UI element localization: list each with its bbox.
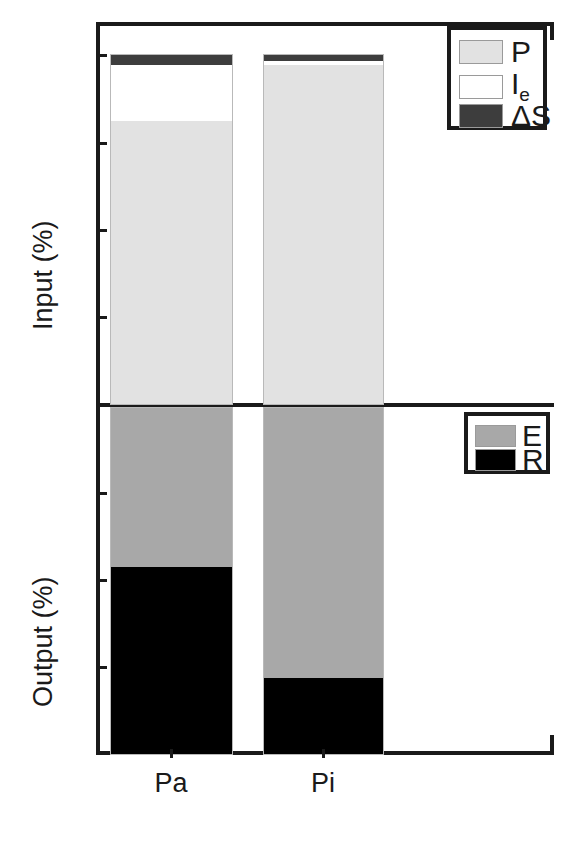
legend-swatch-P-icon: [459, 40, 503, 64]
ytick-output-75: [96, 666, 107, 669]
bar-pa-input-P: [110, 121, 233, 405]
ytick-input-75: [96, 142, 107, 145]
ytick-output-50: [96, 579, 107, 582]
bar-pi-output-E: [263, 407, 384, 678]
bar-pa-output-R: [110, 567, 233, 755]
legend-swatch-E-icon: [475, 425, 516, 447]
legend-label-R: R: [522, 445, 544, 475]
bar-pi-input-P: [263, 65, 384, 405]
legend-label-P: P: [511, 37, 531, 67]
frame-right-stub-bottom: [550, 735, 554, 755]
bar-pa-input-Ie: [110, 65, 233, 121]
legend-swatch-R-icon: [475, 449, 516, 471]
xtick-pa: [170, 749, 173, 758]
ytick-output-100: [96, 752, 107, 755]
ytick-input-50: [96, 229, 107, 232]
xtick-label-pa: Pa: [131, 768, 211, 798]
bar-pa-output-E: [110, 407, 233, 567]
ytick-input-100: [96, 54, 107, 57]
legend-swatch-dS-icon: [459, 104, 503, 128]
axis-title-input: Input (%): [28, 220, 59, 330]
frame-right-stub-top: [550, 22, 554, 40]
bar-pi-output-R: [263, 678, 384, 755]
legend-output: E R: [464, 412, 550, 474]
bar-pa-input-dS: [110, 54, 233, 65]
ytick-output-25: [96, 492, 107, 495]
chart-figure: 100 75 50 25 0 Input (%) 25 50 75 100 Ou…: [0, 0, 576, 843]
bar-pi-input-dS: [263, 54, 384, 61]
legend-entry-R: R: [475, 445, 544, 475]
ytick-input-25: [96, 316, 107, 319]
legend-swatch-Ie-icon: [459, 75, 503, 99]
legend-entry-dS: ΔS: [459, 101, 551, 131]
xtick-label-pi: Pi: [283, 768, 363, 798]
legend-label-dS: ΔS: [511, 101, 551, 131]
axis-title-output: Output (%): [28, 576, 59, 707]
legend-entry-P: P: [459, 37, 531, 67]
legend-input: P Ie ΔS: [447, 26, 547, 130]
xtick-pi: [322, 749, 325, 758]
